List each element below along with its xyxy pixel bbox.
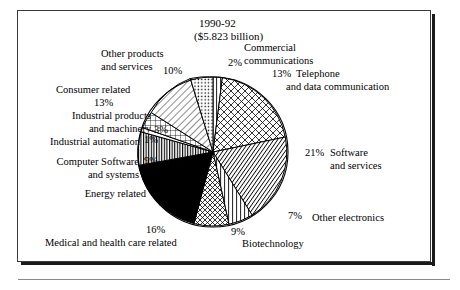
label-consumer-related-percent: 13% [94, 97, 113, 110]
label-telephone-percent: 13% [272, 68, 291, 81]
label-commercial-communications-line2: communications [244, 55, 313, 68]
label-other-electronics-percent: 7% [288, 210, 302, 223]
label-other-products-line2: and services [101, 61, 153, 74]
label-energy-related-line1: Energy related [12, 188, 146, 201]
label-industrial-automation-line1: Industrial automation [8, 136, 140, 149]
label-telephone-line2: and data communication [286, 81, 389, 94]
label-other-products-line1: Other products [101, 48, 164, 61]
label-biotechnology-line1: Biotechnology [242, 238, 304, 251]
label-commercial-communications-percent: 2% [228, 57, 242, 70]
label-industrial-products-line2: and machinery [20, 123, 151, 136]
label-computer-software-line1: Computer Software [8, 156, 139, 169]
label-other-products-percent: 10% [163, 65, 182, 78]
label-commercial-communications: Commercial communications [244, 42, 313, 67]
label-computer-software-percent: 9% [144, 155, 158, 168]
label-commercial-communications-line1: Commercial [244, 42, 313, 55]
label-medical-line1: Medical and health care related [45, 237, 177, 250]
label-software-services-percent: 21% [305, 147, 324, 160]
label-other-electronics-line1: Other electronics [312, 212, 384, 225]
label-software-services-line2: and services [330, 160, 382, 173]
label-biotechnology-percent: 9% [231, 226, 245, 239]
label-industrial-products-line1: Industrial products [20, 110, 151, 123]
label-telephone-line1: Telephone [296, 68, 340, 81]
label-industrial-products-percent: 3% [154, 124, 168, 137]
label-consumer-related-line1: Consumer related [56, 84, 130, 97]
label-energy-related-percent: 1% [150, 186, 164, 199]
label-software-services-line1: Software [330, 147, 368, 160]
label-medical-percent: 16% [146, 224, 165, 237]
label-computer-software-line2: and systems [8, 169, 139, 182]
